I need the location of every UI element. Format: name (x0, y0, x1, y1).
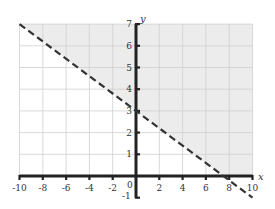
y-tick-label: 5 (126, 63, 132, 73)
y-tick-label: 2 (126, 128, 132, 138)
x-tick-label: -4 (85, 183, 94, 193)
x-tick-label: -2 (108, 183, 117, 193)
inequality-graph: -10-8-6-4-22468101234567 x y 0 -1 (0, 0, 275, 209)
y-tick-label: 3 (126, 106, 132, 116)
x-tick-label: 10 (247, 183, 259, 193)
y-tick-label: 7 (126, 19, 132, 29)
y-tick-label: 4 (126, 84, 132, 94)
x-tick-label: -8 (38, 183, 47, 193)
y-tick-label: 6 (126, 41, 132, 51)
x-tick-label: -10 (12, 183, 27, 193)
y-negative-label: -1 (122, 191, 131, 201)
x-tick-label: 4 (180, 183, 186, 193)
y-axis-label: y (139, 13, 146, 24)
x-tick-label: 6 (203, 183, 209, 193)
origin-label: 0 (127, 180, 133, 190)
y-tick-label: 1 (126, 149, 132, 159)
x-axis-label: x (258, 171, 264, 182)
x-tick-label: 8 (226, 183, 232, 193)
x-tick-label: -6 (62, 183, 71, 193)
x-tick-label: 2 (156, 183, 162, 193)
